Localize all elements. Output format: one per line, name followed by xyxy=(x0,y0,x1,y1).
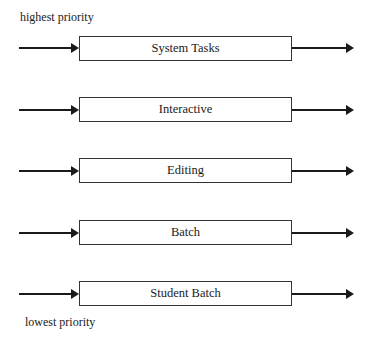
queue-box-interactive: Interactive xyxy=(79,97,292,122)
queue-box-editing: Editing xyxy=(79,158,292,183)
input-arrow-student-batch xyxy=(19,293,77,295)
input-arrow-interactive xyxy=(19,109,77,111)
queue-label: Editing xyxy=(167,163,204,178)
input-arrow-batch xyxy=(19,232,77,234)
queue-box-system-tasks: System Tasks xyxy=(79,36,292,61)
output-arrow-editing xyxy=(292,170,352,172)
input-arrow-system-tasks xyxy=(19,47,77,49)
queue-label: Student Batch xyxy=(150,286,220,301)
input-arrow-editing xyxy=(19,170,77,172)
output-arrow-student-batch xyxy=(292,293,352,295)
queue-box-batch: Batch xyxy=(79,220,292,245)
output-arrow-interactive xyxy=(292,109,352,111)
output-arrow-system-tasks xyxy=(292,47,352,49)
queue-label: System Tasks xyxy=(152,41,220,56)
lowest-priority-label: lowest priority xyxy=(25,315,95,330)
queue-box-student-batch: Student Batch xyxy=(79,281,292,306)
highest-priority-label: highest priority xyxy=(20,10,94,25)
queue-label: Batch xyxy=(171,225,200,240)
output-arrow-batch xyxy=(292,232,352,234)
queue-label: Interactive xyxy=(159,102,212,117)
